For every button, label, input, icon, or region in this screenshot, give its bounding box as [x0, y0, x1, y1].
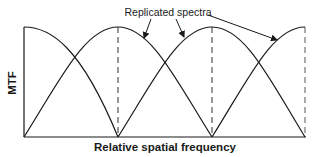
annotation-label: Replicated spectra [125, 6, 212, 18]
x-axis-title: Relative spatial frequency [94, 141, 236, 153]
annotation-arrow-1 [144, 19, 151, 38]
annotation-arrow-2 [176, 19, 184, 37]
mtf-replicated-spectra-diagram: Replicated spectra Relative spatial freq… [0, 0, 314, 157]
y-axis-title: MTF [6, 71, 18, 95]
curve-replica-3 [212, 27, 305, 137]
curve-original-spectrum [24, 27, 118, 137]
